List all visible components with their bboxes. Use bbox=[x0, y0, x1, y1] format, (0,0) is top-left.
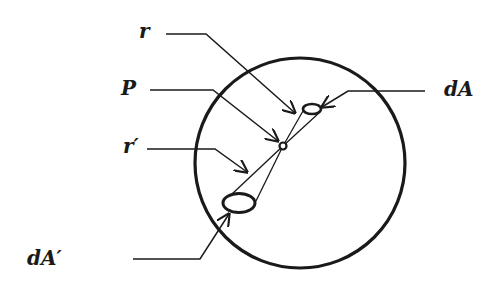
sphere-circle bbox=[195, 58, 405, 268]
area-element-dA-prime bbox=[223, 194, 255, 213]
label-dA-prime: dA′ bbox=[27, 248, 62, 268]
area-element-dA bbox=[303, 104, 321, 114]
leader-line-r bbox=[166, 34, 295, 113]
leader-line-dA-prime bbox=[133, 214, 229, 259]
label-dA: dA bbox=[444, 79, 474, 99]
leader-line-dA bbox=[322, 91, 425, 107]
label-r-prime: r′ bbox=[123, 136, 139, 156]
label-r: r bbox=[139, 21, 150, 41]
leader-line-P bbox=[150, 90, 278, 141]
diagram-canvas bbox=[0, 0, 501, 289]
label-P: P bbox=[121, 78, 136, 98]
point-P bbox=[280, 143, 287, 150]
cone-to-dA bbox=[283, 111, 320, 146]
